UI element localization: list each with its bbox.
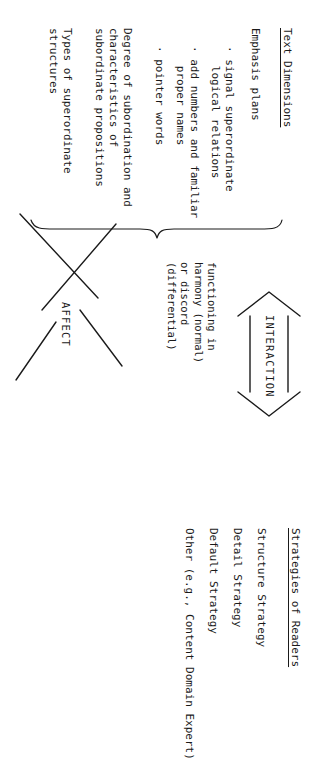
text-dimensions-group-0-bullet-2: · pointer words	[152, 46, 166, 145]
strategies-item-0: Structure Strategy	[254, 528, 268, 647]
text-dimensions-heading: Text Dimensions	[280, 28, 294, 127]
strategies-item-3: Other (e.g., Content Domain Expert)	[182, 528, 196, 760]
strategies-item-2: Default Strategy	[206, 528, 220, 634]
text-dimensions-group-1-label: Degree of subordination and characterist…	[92, 28, 134, 207]
affect-arrow-label: AFFECT	[59, 302, 72, 347]
text-dimensions-group-0-bullet-0: · signal superordinate logical relations	[208, 46, 236, 192]
strategies-item-1: Detail Strategy	[230, 528, 244, 627]
strategies-of-readers-heading: Strategies of Readers	[288, 528, 302, 667]
interaction-arrow-label: INTERACTION	[263, 315, 276, 398]
text-dimensions-group-2-label: Types of superordinate structures	[46, 28, 74, 174]
text-dimensions-group-0-bullet-1: · add numbers and familiar proper names	[173, 46, 201, 218]
affect-arrow	[12, 214, 124, 514]
interaction-caption: functioning in harmony (normal) or disco…	[164, 262, 218, 363]
text-dimensions-group-0-label: Emphasis plans	[248, 28, 262, 121]
